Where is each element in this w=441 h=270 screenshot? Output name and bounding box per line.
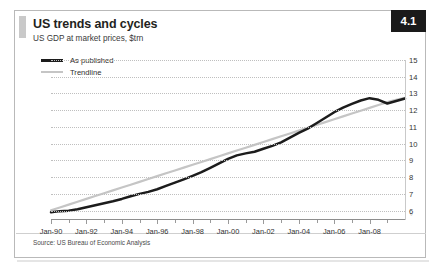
chart-number-badge: 4.1: [391, 10, 426, 32]
x-axis-minor-tick: [210, 220, 211, 223]
x-axis-tick-label: Jan-00: [217, 227, 240, 236]
gridline: [51, 211, 405, 212]
title-accent-bar: [19, 16, 26, 38]
x-axis-minor-tick: [352, 220, 353, 223]
y-axis-tick-label: 15: [409, 56, 425, 65]
chart-subtitle: US GDP at market prices, $trn: [33, 34, 143, 43]
x-axis-minor-tick: [69, 220, 70, 223]
gridline: [51, 93, 405, 94]
x-axis-tick: [370, 220, 371, 224]
y-axis-tick-label: 10: [409, 140, 425, 149]
x-axis-tick: [263, 220, 264, 224]
x-axis-minor-tick: [281, 220, 282, 223]
gridline: [51, 194, 405, 195]
x-axis-minor-tick: [317, 220, 318, 223]
x-axis-tick-label: Jan-06: [323, 227, 346, 236]
plot-area: [51, 60, 405, 219]
x-axis-tick-label: Jan-96: [146, 227, 169, 236]
y-axis-tick-label: 14: [409, 73, 425, 82]
y-axis-line: [405, 60, 406, 220]
gridline: [51, 60, 405, 61]
chart-svg: [51, 60, 405, 219]
gridline: [51, 110, 405, 111]
y-axis-tick-label: 8: [409, 173, 425, 182]
y-axis-tick-label: 13: [409, 89, 425, 98]
x-axis-tick-label: Jan-90: [40, 227, 63, 236]
y-axis-tick-label: 9: [409, 156, 425, 165]
y-axis-tick-label: 12: [409, 106, 425, 115]
x-axis-tick: [334, 220, 335, 224]
x-axis-minor-tick: [387, 220, 388, 223]
gridline: [51, 160, 405, 161]
x-axis-tick: [122, 220, 123, 224]
gridline: [51, 144, 405, 145]
y-axis-tick-label: 11: [409, 123, 425, 132]
x-axis-tick: [299, 220, 300, 224]
x-axis-tick: [193, 220, 194, 224]
gridline: [51, 127, 405, 128]
series-line-as-published: [51, 98, 405, 212]
x-axis-tick: [157, 220, 158, 224]
y-axis-tick-label: 6: [409, 207, 425, 216]
x-axis-tick: [86, 220, 87, 224]
x-axis-minor-tick: [104, 220, 105, 223]
x-axis-minor-tick: [246, 220, 247, 223]
x-axis-minor-tick: [175, 220, 176, 223]
x-axis-tick-label: Jan-98: [181, 227, 204, 236]
x-axis-tick-label: Jan-92: [75, 227, 98, 236]
x-axis-tick: [228, 220, 229, 224]
x-axis-tick: [51, 220, 52, 224]
x-axis-tick-label: Jan-08: [358, 227, 381, 236]
y-axis-tick-label: 7: [409, 190, 425, 199]
x-axis-tick-label: Jan-04: [287, 227, 310, 236]
x-axis-minor-tick: [140, 220, 141, 223]
chart-card: US trends and cycles US GDP at market pr…: [14, 10, 426, 258]
gridline: [51, 77, 405, 78]
gridline: [51, 177, 405, 178]
page-title: US trends and cycles: [33, 17, 157, 31]
x-axis-tick-label: Jan-94: [110, 227, 133, 236]
source-note: Source: US Bureau of Economic Analysis: [33, 239, 150, 246]
x-axis-tick-label: Jan-02: [252, 227, 275, 236]
